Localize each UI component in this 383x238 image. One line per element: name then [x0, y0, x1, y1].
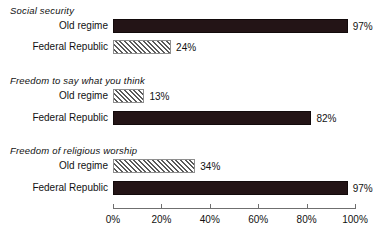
x-axis-tick	[355, 204, 356, 209]
bar-category-label: Federal Republic	[0, 180, 108, 196]
bar-category-label: Federal Republic	[0, 39, 108, 55]
x-axis-tick-label: 80%	[297, 214, 317, 225]
bar-category-label: Old regime	[0, 88, 108, 104]
x-axis-tick	[210, 204, 211, 209]
x-axis-line	[113, 208, 355, 209]
bar-track: 24%	[113, 40, 355, 54]
group-title: Social security	[10, 5, 74, 16]
x-axis-tick	[113, 204, 114, 209]
x-axis-tick-label: 40%	[200, 214, 220, 225]
bar-track: 97%	[113, 19, 355, 33]
x-axis-tick-label: 100%	[342, 214, 368, 225]
bar-hatched	[113, 159, 195, 173]
x-axis-tick	[161, 204, 162, 209]
bar-value-label: 97%	[348, 181, 373, 195]
x-axis-tick-label: 60%	[248, 214, 268, 225]
bar-category-label: Old regime	[0, 18, 108, 34]
bar-category-label: Federal Republic	[0, 110, 108, 126]
x-axis-tick	[258, 204, 259, 209]
bar-row: Old regime13%	[0, 88, 383, 104]
bar-solid	[113, 111, 311, 125]
bar-value-label: 24%	[171, 40, 196, 54]
x-axis-tick	[307, 204, 308, 209]
bar-row: Federal Republic97%	[0, 180, 383, 196]
group-title: Freedom of religious worship	[10, 145, 137, 156]
bar-row: Federal Republic82%	[0, 110, 383, 126]
bar-value-label: 34%	[195, 159, 220, 173]
bar-track: 13%	[113, 89, 355, 103]
bar-track: 34%	[113, 159, 355, 173]
bar-hatched	[113, 89, 144, 103]
bar-row: Old regime34%	[0, 158, 383, 174]
bar-solid	[113, 19, 348, 33]
bar-hatched	[113, 40, 171, 54]
bar-solid	[113, 181, 348, 195]
bar-row: Old regime97%	[0, 18, 383, 34]
bar-value-label: 97%	[348, 19, 373, 33]
x-axis-tick-label: 20%	[151, 214, 171, 225]
bar-value-label: 13%	[144, 89, 169, 103]
bar-chart: Social securityOld regime97%Federal Repu…	[0, 0, 383, 238]
x-axis-tick-label: 0%	[106, 214, 120, 225]
bar-track: 97%	[113, 181, 355, 195]
bar-value-label: 82%	[311, 111, 336, 125]
bar-track: 82%	[113, 111, 355, 125]
bar-category-label: Old regime	[0, 158, 108, 174]
group-title: Freedom to say what you think	[10, 75, 145, 86]
bar-row: Federal Republic24%	[0, 39, 383, 55]
